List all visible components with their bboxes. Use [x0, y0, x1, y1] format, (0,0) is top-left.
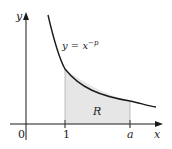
- diagram-canvas: [0, 0, 172, 149]
- y-axis-arrow-icon: [23, 12, 29, 20]
- region-label: R: [93, 106, 101, 117]
- y-axis-label: y: [16, 11, 22, 22]
- x-axis-arrow-icon: [155, 121, 163, 127]
- curve-label: y = x−p: [62, 40, 98, 51]
- curve-label-base: y = x: [62, 40, 88, 51]
- tick-label-a: a: [127, 129, 134, 140]
- x-axis-label: x: [154, 129, 160, 140]
- tick-label-1: 1: [63, 129, 70, 140]
- curve-label-exponent: −p: [88, 39, 98, 47]
- origin-label: 0: [18, 129, 25, 140]
